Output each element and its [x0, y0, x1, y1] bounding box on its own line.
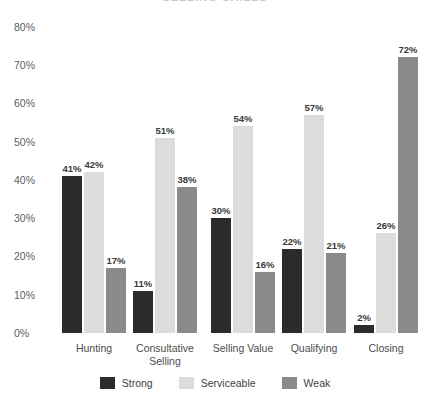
- bar[interactable]: [62, 176, 82, 333]
- bar-value-label: 21%: [326, 240, 345, 251]
- legend-item[interactable]: Serviceable: [179, 377, 256, 389]
- x-axis-label: Consultative Selling: [126, 342, 204, 367]
- legend-label: Weak: [304, 377, 331, 389]
- bar-value-label: 2%: [357, 312, 371, 323]
- bar-value-label: 17%: [106, 255, 125, 266]
- bar-value-label: 16%: [255, 259, 274, 270]
- legend-label: Strong: [122, 377, 153, 389]
- bar[interactable]: [211, 218, 231, 333]
- bar[interactable]: [255, 272, 275, 333]
- bar[interactable]: [398, 57, 418, 333]
- bar-value-label: 54%: [233, 113, 252, 124]
- bar-value-label: 38%: [177, 174, 196, 185]
- bar-value-label: 11%: [134, 278, 153, 289]
- bar-value-label: 22%: [282, 236, 301, 247]
- bar[interactable]: [282, 249, 302, 333]
- bar-value-label: 57%: [304, 102, 323, 113]
- bar-value-label: 30%: [211, 205, 230, 216]
- legend-item[interactable]: Strong: [100, 377, 153, 389]
- bar[interactable]: [177, 187, 197, 333]
- chart-legend: StrongServiceableWeak: [0, 377, 430, 389]
- bar[interactable]: [304, 115, 324, 333]
- bar-value-label: 26%: [376, 220, 395, 231]
- bar-value-label: 72%: [398, 44, 417, 55]
- x-axis-label: Hunting: [55, 342, 133, 355]
- bars-layer: 41%42%17%11%51%38%30%54%16%22%57%21%2%26…: [0, 0, 430, 355]
- bar[interactable]: [84, 172, 104, 333]
- legend-swatch-icon: [100, 377, 115, 389]
- bar-value-label: 41%: [62, 163, 81, 174]
- bar-value-label: 51%: [155, 125, 174, 136]
- x-axis-label: Closing: [347, 342, 425, 355]
- legend-item[interactable]: Weak: [282, 377, 331, 389]
- legend-swatch-icon: [282, 377, 297, 389]
- bar[interactable]: [106, 268, 126, 333]
- bar[interactable]: [354, 325, 374, 333]
- bar-value-label: 42%: [84, 159, 103, 170]
- x-axis-label: Selling Value: [204, 342, 282, 355]
- bar[interactable]: [376, 233, 396, 333]
- bar[interactable]: [155, 138, 175, 333]
- legend-swatch-icon: [179, 377, 194, 389]
- bar[interactable]: [326, 253, 346, 333]
- x-axis-label: Qualifying: [275, 342, 353, 355]
- plot-area: 0%10%20%30%40%50%60%70%80% 41%42%17%11%5…: [0, 0, 430, 355]
- legend-label: Serviceable: [201, 377, 256, 389]
- bar[interactable]: [233, 126, 253, 333]
- bar[interactable]: [133, 291, 153, 333]
